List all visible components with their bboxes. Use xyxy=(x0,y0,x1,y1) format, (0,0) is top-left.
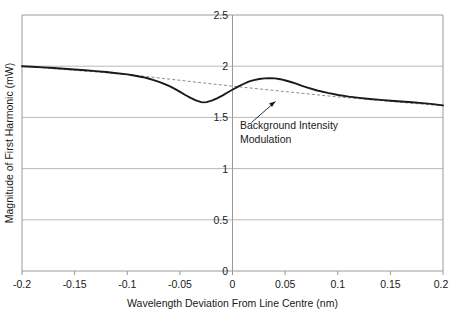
xtick-label-0: 0 xyxy=(230,278,236,290)
chart-figure: Background Intensity Modulation 2.5 2 1.… xyxy=(0,0,463,320)
xtick-label--0.05: -0.05 xyxy=(168,278,192,290)
ytick-label-0: 0 xyxy=(222,265,228,277)
ytick-label-1.5: 1.5 xyxy=(213,111,228,123)
xtick-label--0.2: -0.2 xyxy=(13,278,31,290)
xtick-label-0.2: 0.2 xyxy=(434,278,449,290)
ytick-label-1: 1 xyxy=(222,163,228,175)
xtick-label-0.05: 0.05 xyxy=(275,278,296,290)
annotation-line-2: Modulation xyxy=(240,133,292,145)
y-axis-title: Magnitude of First Harmonic (mW) xyxy=(3,63,15,223)
x-axis-title: Wavelength Deviation From Line Centre (n… xyxy=(127,297,338,309)
annotation-line-1: Background Intensity xyxy=(240,119,339,131)
xtick-label-0.1: 0.1 xyxy=(330,278,345,290)
xtick-marks xyxy=(22,271,443,275)
chart-canvas: Background Intensity Modulation 2.5 2 1.… xyxy=(0,0,463,320)
xtick-label--0.1: -0.1 xyxy=(118,278,136,290)
xtick-label--0.15: -0.15 xyxy=(63,278,87,290)
xtick-label-0.15: 0.15 xyxy=(380,278,401,290)
ytick-label-0.5: 0.5 xyxy=(213,214,228,226)
ytick-label-2.5: 2.5 xyxy=(213,9,228,21)
ytick-label-2: 2 xyxy=(222,60,228,72)
